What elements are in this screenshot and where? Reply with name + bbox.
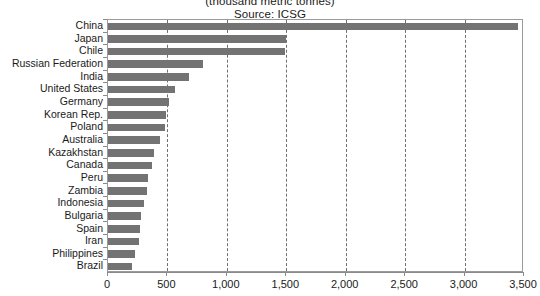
x-axis-label: 500: [157, 279, 175, 290]
bar: [108, 263, 132, 271]
x-axis-tick: [404, 272, 405, 276]
x-axis-line: [107, 272, 523, 273]
bar-row: [108, 200, 522, 208]
chart-title-units: (thousand metric tonnes): [0, 0, 540, 8]
bar-row: [108, 225, 522, 233]
bar-row: [108, 124, 522, 132]
y-axis-label: India: [0, 71, 103, 82]
y-axis-labels: ChinaJapanChileRussian FederationIndiaUn…: [0, 19, 103, 272]
bar: [108, 200, 144, 208]
bar-row: [108, 60, 522, 68]
bar: [108, 174, 148, 182]
x-axis-label: 2,000: [331, 279, 359, 290]
bar: [108, 238, 139, 246]
y-axis-label: Australia: [0, 134, 103, 145]
bar-row: [108, 174, 522, 182]
y-axis-label: Zambia: [0, 185, 103, 196]
bar: [108, 73, 189, 81]
y-axis-label: Canada: [0, 159, 103, 170]
y-axis-label: Chile: [0, 45, 103, 56]
y-axis-label: Bulgaria: [0, 210, 103, 221]
bar-row: [108, 73, 522, 81]
x-axis-label: 0: [104, 279, 110, 290]
y-axis-label: Russian Federation: [0, 58, 103, 69]
y-axis-label: Spain: [0, 223, 103, 234]
bar-row: [108, 250, 522, 258]
bar: [108, 48, 285, 56]
x-axis-tick: [285, 272, 286, 276]
bar: [108, 250, 135, 258]
y-axis-label: Japan: [0, 33, 103, 44]
bar-row: [108, 187, 522, 195]
x-axis-label: 1,000: [212, 279, 240, 290]
y-axis-label: Peru: [0, 172, 103, 183]
y-axis-label: Germany: [0, 96, 103, 107]
bar: [108, 187, 147, 195]
bar-row: [108, 86, 522, 94]
bar-row: [108, 35, 522, 43]
x-axis-tick: [523, 272, 524, 276]
bar-row: [108, 238, 522, 246]
bar-chart: (thousand metric tonnes) Source: ICSG Ch…: [0, 0, 540, 296]
bar: [108, 225, 140, 233]
y-axis-label: Korean Rep.: [0, 109, 103, 120]
y-axis-label: Brazil: [0, 260, 103, 271]
bar: [108, 162, 152, 170]
y-axis-label: Indonesia: [0, 197, 103, 208]
bar: [108, 23, 518, 31]
bars-layer: [108, 20, 522, 271]
bar: [108, 98, 169, 106]
x-axis-tick: [345, 272, 346, 276]
bar-row: [108, 162, 522, 170]
x-axis-tick: [226, 272, 227, 276]
bar-row: [108, 263, 522, 271]
y-axis-label: United States: [0, 83, 103, 94]
x-axis-tick: [464, 272, 465, 276]
x-axis-label: 2,500: [390, 279, 418, 290]
y-axis-label: China: [0, 20, 103, 31]
bar-row: [108, 136, 522, 144]
chart-title-block: (thousand metric tonnes) Source: ICSG: [0, 0, 540, 21]
y-axis-label: Iran: [0, 235, 103, 246]
bar: [108, 136, 160, 144]
bar: [108, 124, 165, 132]
bar: [108, 86, 175, 94]
x-axis-tick: [166, 272, 167, 276]
bar: [108, 60, 203, 68]
bar-row: [108, 48, 522, 56]
x-axis-label: 1,500: [272, 279, 300, 290]
bar-row: [108, 111, 522, 119]
bar: [108, 111, 166, 119]
x-axis-label: 3,500: [509, 279, 537, 290]
bar-row: [108, 23, 522, 31]
x-axis-label: 3,000: [450, 279, 478, 290]
y-axis-label: Kazakhstan: [0, 147, 103, 158]
y-axis-label: Philippines: [0, 248, 103, 259]
bar-row: [108, 149, 522, 157]
bar: [108, 149, 154, 157]
y-axis-label: Poland: [0, 121, 103, 132]
bar-row: [108, 212, 522, 220]
bar-row: [108, 98, 522, 106]
bar: [108, 35, 286, 43]
x-axis-tick: [107, 272, 108, 276]
plot-area: [107, 19, 523, 272]
bar: [108, 212, 141, 220]
